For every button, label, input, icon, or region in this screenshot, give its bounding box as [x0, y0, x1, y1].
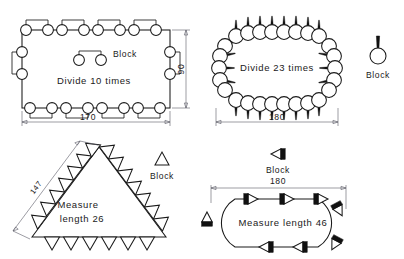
- legend-oval-block: Block: [356, 30, 400, 84]
- legend-label-rect: Block: [113, 49, 137, 59]
- triangle-icon: [155, 152, 169, 165]
- panel-rect-divide-10: Block Divide 10 times 170 90: [0, 8, 202, 130]
- dimension-label-180-stadium: 180: [270, 176, 286, 186]
- circle-icon: [370, 48, 386, 64]
- legend-block-sample: [74, 51, 107, 65]
- caption-divide-10: Divide 10 times: [57, 75, 131, 86]
- block-group-left: [12, 47, 27, 80]
- caption-divide-23: Divide 23 times: [240, 62, 314, 73]
- rect-path: [22, 30, 170, 108]
- legend-label-stadium: Block: [266, 165, 290, 175]
- block-group-top: [21, 20, 162, 35]
- stadium-blocks-top: [244, 194, 328, 205]
- panel-stadium-measure-46: Block 180: [200, 133, 404, 259]
- arrow-triangle-icon: [271, 149, 281, 159]
- stadium-blocks-right: [327, 201, 347, 253]
- dimension-label-170: 170: [80, 112, 96, 122]
- caption-measure-46: Measure length 46: [239, 217, 328, 228]
- dimension-label-180-oval: 180: [269, 112, 285, 122]
- legend-label-triangle: Block: [150, 171, 174, 181]
- legend-label-oval: Block: [366, 70, 390, 80]
- legend-triangle-block: [155, 152, 169, 165]
- triangle-blocks-bottom: [45, 237, 155, 250]
- panel-oval-divide-23: Divide 23 times 180: [202, 8, 350, 130]
- solid-bar-icon: [281, 149, 285, 160]
- stadium-block-left: [202, 212, 213, 226]
- caption-measure-26-line1: Measure: [57, 199, 98, 210]
- dimension-label-147: 147: [28, 179, 44, 196]
- dimension-label-90: 90: [176, 64, 186, 75]
- legend-stadium-block: [271, 149, 285, 160]
- panel-triangle-measure-26: 147 Measure length 26 Block: [0, 133, 200, 259]
- diagram-sheet: Block Divide 10 times 170 90: [0, 0, 404, 259]
- caption-measure-26-line2: length 26: [60, 213, 105, 224]
